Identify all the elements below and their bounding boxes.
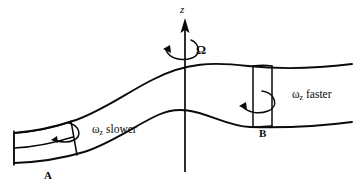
element-b-top-edge — [253, 65, 272, 66]
element-a-speed-word: slower — [106, 123, 137, 135]
element-b-rotation-arrowhead — [239, 102, 247, 110]
omega-rotation-label: Ω — [196, 44, 206, 57]
omega-symbol-b: ω — [292, 88, 300, 100]
point-b-label: B — [259, 128, 266, 139]
omega-rotation-arc — [166, 40, 198, 60]
element-b-speed-word: faster — [306, 88, 332, 100]
omega-symbol-a: ω — [92, 123, 100, 135]
element-b-rotation-arrow — [243, 91, 275, 113]
z-axis-label: z — [180, 4, 184, 15]
element-a-annotation: ωz slower — [92, 124, 137, 137]
element-b-annotation: ωz faster — [292, 89, 332, 102]
point-a-label: A — [44, 170, 52, 181]
lower-surface-curve — [14, 110, 352, 163]
figure-canvas: z Ω A B ωz slower ωz faster — [0, 0, 354, 188]
